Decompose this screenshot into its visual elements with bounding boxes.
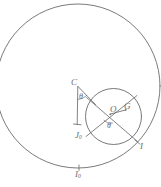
label-point-j0-sub: 0: [79, 134, 82, 140]
label-point-i0: I0: [75, 170, 81, 180]
label-point-g: G: [124, 102, 131, 111]
label-point-j0: J0: [75, 131, 82, 141]
label-angle-theta-at-o: θ: [107, 122, 111, 130]
geometry-figure: C O G I J0 I0 θ θ: [0, 0, 161, 187]
label-point-i0-sub: 0: [78, 173, 81, 179]
label-point-i: I: [140, 142, 143, 151]
vertical-line-from-c: [77, 87, 78, 125]
vertical-line-foot-tick: [74, 124, 82, 125]
label-point-c: C: [71, 78, 77, 87]
label-center-o: O: [110, 105, 117, 114]
label-angle-theta-at-c: θ: [79, 93, 83, 101]
inner-circle: [86, 89, 142, 145]
outer-circle: [0, 4, 160, 168]
